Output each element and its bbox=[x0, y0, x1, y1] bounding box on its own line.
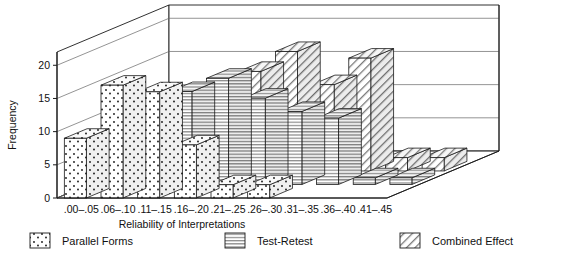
legend-label: Combined Effect bbox=[432, 235, 513, 247]
legend-item: Parallel Forms bbox=[30, 233, 133, 248]
x-tick-labels: .00–.05.06–.10.11–.15.16–.20.21–.25.26–.… bbox=[64, 203, 393, 215]
y-tick-label: 15 bbox=[38, 92, 50, 104]
y-tick-label: 0 bbox=[44, 192, 50, 204]
diagonal-hatch-swatch bbox=[400, 233, 420, 248]
bar-front bbox=[390, 178, 412, 185]
bar-side bbox=[229, 69, 252, 185]
bar-chart-3d: 05101520 .00–.05.06–.10.11–.15.16–.20.21… bbox=[0, 0, 561, 265]
y-tick-label: 10 bbox=[38, 125, 50, 137]
x-axis-title: Reliability of Interpretations bbox=[119, 218, 246, 230]
y-tick-label: 20 bbox=[38, 59, 50, 71]
x-tick-label: .06–.10 bbox=[100, 203, 135, 215]
chart-legend: Parallel FormsTest-RetestCombined Effect bbox=[30, 233, 513, 248]
legend-item: Test-Retest bbox=[225, 233, 313, 248]
bar-front bbox=[353, 178, 375, 185]
horizontal-lines-swatch bbox=[225, 233, 245, 248]
bar-side bbox=[339, 109, 362, 185]
y-axis-title: Frequency bbox=[6, 99, 18, 149]
bar-side bbox=[86, 129, 109, 198]
bar-front bbox=[64, 138, 86, 198]
bar-side bbox=[265, 89, 288, 185]
x-tick-label: .21–.25 bbox=[210, 203, 245, 215]
y-tick-label: 5 bbox=[44, 158, 50, 170]
legend-item: Combined Effect bbox=[400, 233, 513, 248]
bar-side bbox=[123, 76, 146, 198]
legend-label: Test-Retest bbox=[257, 235, 313, 247]
x-tick-label: .00–.05 bbox=[64, 203, 99, 215]
x-tick-label: .26–.30 bbox=[247, 203, 282, 215]
bar-side bbox=[160, 82, 183, 198]
chart-figure: 05101520 .00–.05.06–.10.11–.15.16–.20.21… bbox=[0, 0, 561, 265]
bar bbox=[64, 129, 109, 198]
x-tick-label: .11–.15 bbox=[138, 203, 172, 215]
bar-side bbox=[302, 102, 325, 185]
x-tick-label: .16–.20 bbox=[174, 203, 209, 215]
y-tick-labels: 05101520 bbox=[38, 59, 50, 204]
bar-side bbox=[196, 135, 219, 198]
bar-side bbox=[371, 49, 394, 171]
x-tick-label: .41–.45 bbox=[357, 203, 392, 215]
x-tick-label: .36–.40 bbox=[320, 203, 355, 215]
x-tick-label: .31–.35 bbox=[284, 203, 319, 215]
dots-swatch bbox=[30, 233, 50, 248]
legend-label: Parallel Forms bbox=[62, 235, 133, 247]
